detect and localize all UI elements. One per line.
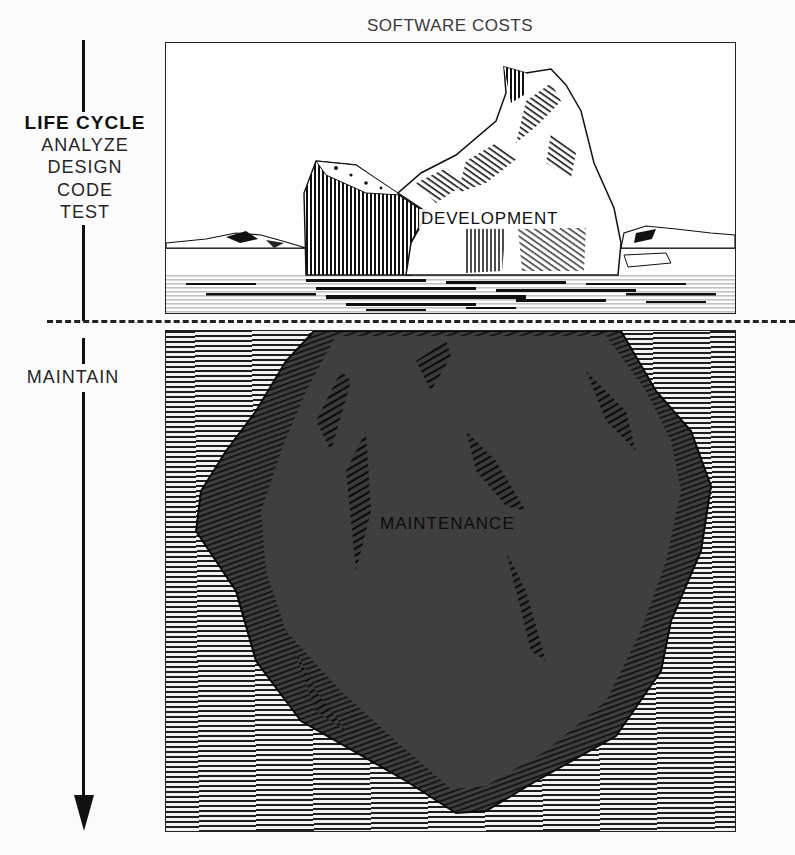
below-water-panel: MAINTENANCE	[165, 330, 736, 832]
life-cycle-arrow-shaft-pre-maintain	[82, 338, 85, 364]
phase-design: DESIGN	[10, 157, 160, 178]
maintenance-label: MAINTENANCE	[380, 514, 515, 534]
life-cycle-arrow-shaft-top	[82, 40, 85, 112]
phase-test: TEST	[10, 202, 160, 223]
waterline-dashed-line	[47, 320, 795, 323]
diagram-title: SOFTWARE COSTS	[300, 16, 600, 36]
phase-maintain: MAINTAIN	[0, 367, 148, 388]
phase-code: CODE	[10, 180, 160, 201]
iceberg-tip-illustration	[166, 43, 735, 313]
arrow-down-icon	[74, 795, 94, 831]
life-cycle-heading: LIFE CYCLE	[10, 112, 160, 133]
iceberg-underwater-illustration	[166, 331, 735, 831]
development-label: DEVELOPMENT	[419, 209, 560, 229]
life-cycle-arrow-shaft-mid	[82, 225, 85, 321]
phase-analyze: ANALYZE	[10, 135, 160, 156]
above-water-panel: DEVELOPMENT	[165, 42, 736, 314]
life-cycle-arrow-shaft-bottom	[82, 392, 85, 798]
